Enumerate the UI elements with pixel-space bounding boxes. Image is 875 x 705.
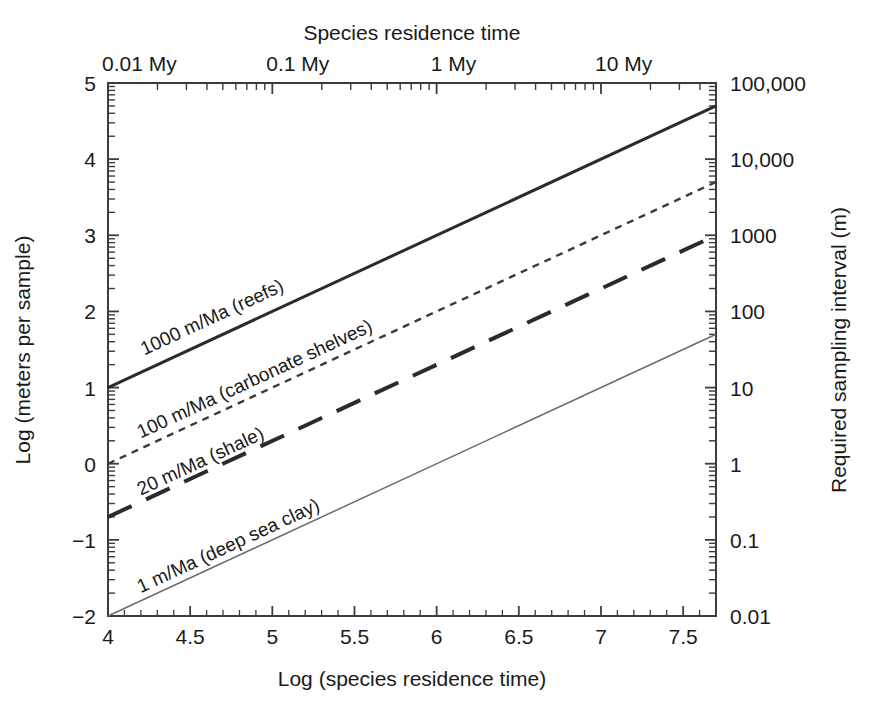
- y-axis-tick-label: −2: [72, 605, 96, 628]
- top-axis-title: Species residence time: [303, 21, 520, 44]
- y-axis-title: Log (meters per sample): [11, 236, 34, 465]
- y2-axis-tick-label: 10: [730, 377, 753, 400]
- chart-figure: Species residence time 0.01 My0.1 My1 My…: [0, 0, 875, 705]
- y-axis-tick-label: 4: [84, 148, 96, 171]
- y-axis-tick-label: 0: [84, 453, 96, 476]
- y-axis-tick-label: 5: [84, 72, 96, 95]
- y2-axis-tick-label: 0.01: [730, 605, 771, 628]
- y-axis-tick-label: 1: [84, 377, 96, 400]
- x-axis-tick-label: 6.5: [504, 625, 533, 648]
- top-axis-tick-label: 0.1 My: [266, 52, 330, 75]
- x-axis-tick-label: 4: [102, 625, 114, 648]
- y2-axis-tick-label: 100,000: [730, 72, 806, 95]
- x-axis-tick-label: 6: [431, 625, 443, 648]
- top-axis-tick-label: 0.01 My: [102, 52, 177, 75]
- x-axis-tick-label: 4.5: [176, 625, 205, 648]
- x-axis-title: Log (species residence time): [278, 667, 546, 690]
- y2-axis-title: Required sampling interval (m): [827, 207, 850, 493]
- y2-axis-tick-label: 100: [730, 300, 765, 323]
- top-axis-tick-label: 10 My: [595, 52, 653, 75]
- x-axis-tick-label: 5.5: [340, 625, 369, 648]
- species-residence-time-chart: Species residence time 0.01 My0.1 My1 My…: [0, 0, 875, 705]
- y2-axis-tick-label: 1000: [730, 224, 777, 247]
- chart-background: [0, 0, 875, 705]
- top-axis-tick-label: 1 My: [431, 52, 477, 75]
- y2-axis-tick-label: 1: [730, 453, 742, 476]
- x-axis-tick-label: 7.5: [669, 625, 698, 648]
- y-axis-tick-label: −1: [72, 529, 96, 552]
- y2-axis-tick-label: 10,000: [730, 148, 794, 171]
- x-axis-tick-label: 7: [595, 625, 607, 648]
- y-axis-tick-label: 2: [84, 300, 96, 323]
- x-axis-tick-label: 5: [266, 625, 278, 648]
- y-axis-tick-label: 3: [84, 224, 96, 247]
- top-axis-title-group: Species residence time: [303, 21, 520, 44]
- y2-axis-tick-label: 0.1: [730, 529, 759, 552]
